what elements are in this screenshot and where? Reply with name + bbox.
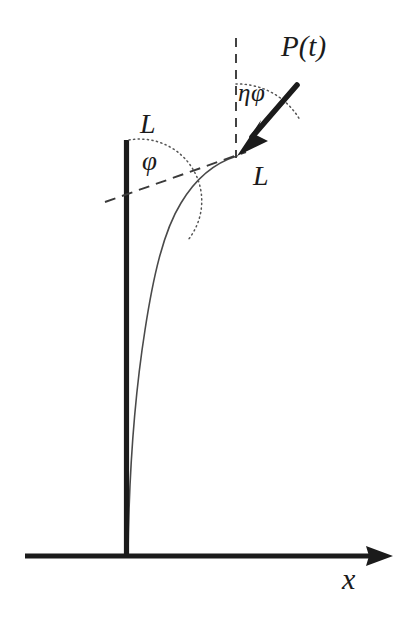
label-deflection-angle-phi: φ — [142, 148, 157, 175]
deflected-rod-curve — [128, 156, 237, 556]
label-force-p-of-t: P(t) — [281, 32, 326, 61]
figure-drawing — [0, 0, 412, 624]
label-x-axis: x — [342, 564, 355, 594]
label-rod-length-upper: L — [140, 110, 156, 138]
x-axis-arrowhead — [366, 546, 393, 566]
label-load-angle-eta-phi: ηφ — [238, 80, 265, 105]
figure-canvas: L φ ηφ P(t) L x — [0, 0, 412, 624]
label-rod-length-tip: L — [253, 162, 269, 190]
